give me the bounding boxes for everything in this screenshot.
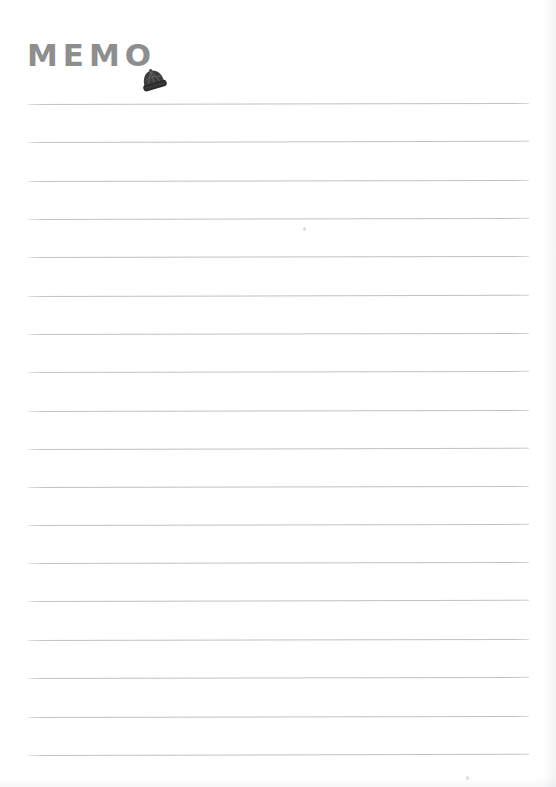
rule-line xyxy=(28,256,529,258)
memo-page: MEMO xyxy=(0,0,556,787)
rule-line xyxy=(28,677,529,679)
rule-line xyxy=(28,716,529,718)
rule-line xyxy=(28,410,529,412)
paper-speck xyxy=(303,227,306,231)
rule-line xyxy=(28,448,529,450)
paper-speck xyxy=(466,776,469,780)
rule-line xyxy=(28,600,529,602)
rule-line xyxy=(28,103,529,105)
rule-line xyxy=(28,180,529,182)
ruled-lines xyxy=(0,0,556,787)
rule-line xyxy=(28,371,529,373)
rule-line xyxy=(28,562,529,564)
rule-line xyxy=(28,295,529,297)
rule-line xyxy=(28,486,529,488)
rule-line xyxy=(28,218,529,220)
rule-line xyxy=(28,524,529,526)
rule-line xyxy=(28,333,529,335)
rule-line xyxy=(28,639,529,641)
rule-line xyxy=(28,141,529,143)
rule-line xyxy=(28,754,529,756)
